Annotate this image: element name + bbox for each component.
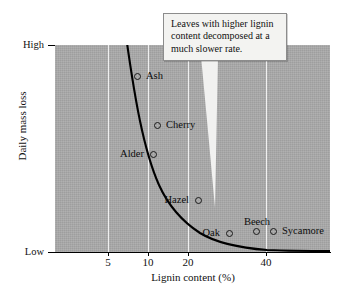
- x-tick-label-20: 20: [176, 256, 200, 269]
- x-axis-line: [55, 252, 331, 253]
- annotation-callout: Leaves with higher lignin content decomp…: [163, 13, 287, 61]
- data-point-cherry: [154, 122, 161, 129]
- data-point-ash: [134, 73, 141, 80]
- data-point-oak: [226, 230, 233, 237]
- plot-panel: Ash Cherry Alder Hazel Oak Beech Sycamor…: [55, 45, 330, 252]
- data-label-hazel: Hazel: [165, 194, 189, 206]
- annotation-line-2: content decomposed at a: [171, 30, 280, 42]
- data-label-oak: Oak: [203, 227, 221, 239]
- x-tick-label-5: 5: [96, 256, 120, 269]
- x-axis-title: Lignin content (%): [55, 271, 331, 283]
- x-tick-label-40: 40: [254, 256, 278, 269]
- data-label-sycamore: Sycamore: [282, 225, 324, 237]
- y-axis-title: Daily mass loss: [16, 56, 28, 196]
- data-point-beech: [253, 228, 260, 235]
- y-tick-label-low: Low: [4, 246, 44, 258]
- y-tick-label-high: High: [4, 39, 44, 51]
- annotation-line-3: much slower rate.: [171, 43, 280, 55]
- callout-pointer: [195, 56, 235, 208]
- data-label-beech: Beech: [244, 216, 270, 228]
- data-point-alder: [150, 151, 157, 158]
- data-label-cherry: Cherry: [166, 119, 195, 131]
- annotation-line-1: Leaves with higher lignin: [171, 18, 280, 30]
- trend-line-curve: [55, 45, 330, 252]
- data-label-ash: Ash: [146, 70, 163, 82]
- y-tick-high: [48, 45, 55, 46]
- data-label-alder: Alder: [120, 148, 144, 160]
- y-tick-low: [48, 252, 55, 253]
- data-point-sycamore: [270, 228, 277, 235]
- lignin-decomposition-chart: Ash Cherry Alder Hazel Oak Beech Sycamor…: [0, 0, 343, 294]
- x-tick-label-10: 10: [136, 256, 160, 269]
